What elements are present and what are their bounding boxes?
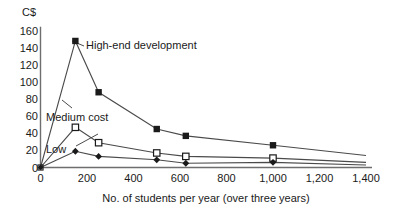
series-lines	[41, 41, 367, 168]
series-label-medium-cost: Medium cost	[46, 111, 108, 123]
x-axis-title: No. of students per year (over three yea…	[0, 192, 412, 204]
series-label-low: Low	[46, 143, 66, 155]
series-label-high-end-development: High-end development	[86, 39, 197, 51]
chart-container: C$ 160140120100806040200 02004006008001,…	[0, 0, 412, 220]
plot-area	[0, 0, 412, 220]
series-markers	[38, 38, 277, 170]
